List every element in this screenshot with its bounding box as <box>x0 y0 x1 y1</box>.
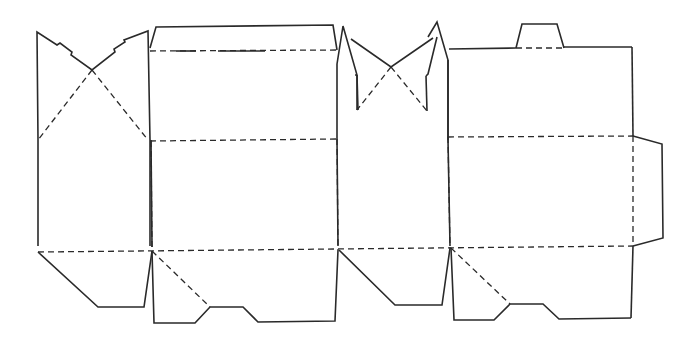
lower-horizontal-fold-line <box>38 246 633 252</box>
left-panel-diag-fold-b-line <box>92 70 148 140</box>
center-bottom-flap-cut-line <box>339 248 450 305</box>
front-top-flap-outline-cut-line <box>150 25 337 50</box>
back-bottom-diag-fold-line <box>451 248 510 304</box>
center-flap-left-diag-cut-line <box>351 38 433 67</box>
upper-horizontal-fold-right-line <box>448 136 633 137</box>
back-top-tab-cut-line <box>516 24 564 48</box>
back-bottom-flap-cut-line <box>451 248 631 320</box>
center-flap-left-spike-cut-line <box>337 26 357 110</box>
fold-lines <box>38 48 633 307</box>
back-panel-right-edge-cut-line <box>632 47 633 136</box>
left-glue-panel-outline-cut-line <box>37 31 150 246</box>
center-flap-left-inner-cut-line <box>357 75 358 110</box>
center-flap-diag-fold-b-line <box>391 67 427 111</box>
front-bottom-diag-fold-line <box>152 251 210 307</box>
box-dieline-diagram <box>0 0 696 348</box>
front-panel-right-edge-cut-line <box>337 64 338 246</box>
front-bottom-flap-cut-line <box>152 250 338 323</box>
left-panel-diag-fold-a-line <box>38 70 92 140</box>
upper-horizontal-fold-left-line <box>150 139 337 141</box>
left-bottom-flap-cut-line <box>38 251 152 307</box>
center-flap-diag-fold-a-line <box>357 67 391 110</box>
center-flap-right-notch-cut-line <box>426 37 437 76</box>
back-top-edge-left-cut-line <box>449 48 516 49</box>
cut-lines <box>37 22 663 323</box>
dieline-drawing <box>0 0 696 348</box>
back-panel-right-lower-cut-line <box>631 246 633 318</box>
center-flap-right-inner-cut-line <box>426 76 427 111</box>
side-tuck-flap-cut-line <box>633 136 663 246</box>
